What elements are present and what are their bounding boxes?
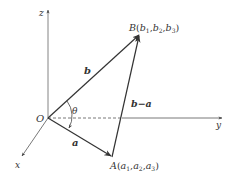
x-axis-label: x bbox=[15, 160, 20, 170]
vector-b-minus-a bbox=[112, 36, 139, 157]
vector-a-label: a bbox=[72, 137, 78, 148]
point-b-label: B(b1,b2,b3) bbox=[128, 22, 179, 34]
point-a-label: A(a1,a2,a3) bbox=[109, 160, 159, 172]
theta-label: θ bbox=[72, 106, 78, 116]
vector-a bbox=[48, 118, 111, 156]
vector-b bbox=[48, 35, 139, 118]
vector-b-minus-a-label: b−a bbox=[131, 98, 152, 109]
origin-label: O bbox=[36, 113, 44, 124]
z-axis-label: z bbox=[38, 8, 44, 18]
y-axis-label: y bbox=[215, 120, 222, 130]
vector-b-label: b bbox=[84, 65, 91, 76]
vector-diagram: z y x O θ b a b−a B(b1,b2,b3) A(a1,a2,a3… bbox=[0, 0, 228, 182]
